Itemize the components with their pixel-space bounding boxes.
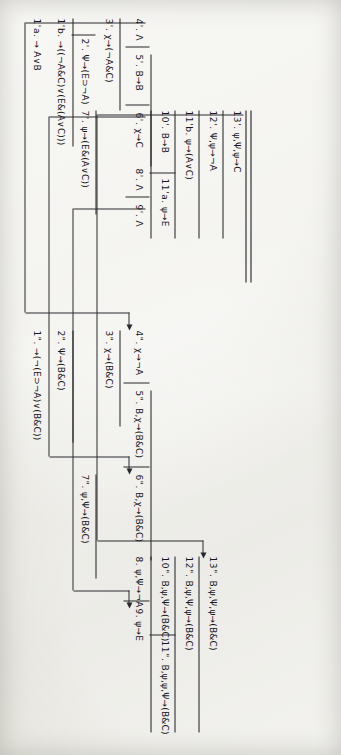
sequent-line-8-prime: 8'. Λ <box>132 168 143 190</box>
sequent-line-4-prime: 4'. Λ <box>132 18 143 40</box>
branch-separator <box>123 382 149 383</box>
sequent-label: 4'. <box>133 18 143 31</box>
branch-separator <box>125 196 149 197</box>
sequent-line-6-dprime: 6". B,χ→(B&C) <box>132 474 143 542</box>
sequent-label: 12". <box>183 556 193 577</box>
arrowhead-to-13dprime-icon <box>201 552 207 558</box>
sequent-body: ψ→(E&(A∨C)) <box>79 126 89 187</box>
sequent-body: B,χ→(B&C) <box>133 408 143 458</box>
sequent-body: B,ψ,Ψ→(B&C) <box>159 580 169 641</box>
inference-bar <box>150 390 151 560</box>
sequent-label: 11". <box>159 640 169 661</box>
sequent-label: 10". <box>159 556 169 577</box>
sequent-label: 2'. <box>79 38 89 51</box>
sequent-label: 13'. <box>231 110 241 129</box>
sequent-label: 1'b. <box>55 18 65 37</box>
inference-bar <box>119 18 120 110</box>
sequent-label: 1". <box>31 330 41 345</box>
sequent-body: → A∨B <box>31 40 41 70</box>
wire-4prime-run <box>24 22 25 312</box>
wire-13prime-riser <box>97 114 243 115</box>
sequent-body: Λ <box>133 220 143 226</box>
sequent-label: 3". <box>103 330 113 345</box>
sequent-line-2-prime: 2'. Ψ→(E⊃¬A) <box>78 38 89 104</box>
branch-separator <box>123 600 149 601</box>
branch-separator <box>149 172 175 173</box>
sequent-body: Ψ,ψ→¬A <box>207 132 217 170</box>
inference-bar <box>174 110 175 238</box>
sequent-body: χ→(B&C) <box>103 348 113 389</box>
wire-13prime-drop <box>97 540 203 541</box>
branch-separator <box>123 466 149 467</box>
sequent-line-13-prime: 13'. ψ,Ψ,ψ→C <box>230 110 241 172</box>
inference-bar <box>119 330 120 426</box>
sequent-body: ψ,Ψ,ψ→C <box>231 132 241 172</box>
sequent-body: Ψ→(E⊃¬A) <box>79 54 89 104</box>
branch-separator <box>125 46 149 47</box>
wire-13prime-run <box>96 114 97 540</box>
inference-bar <box>72 18 73 146</box>
sequent-line-7-prime: 7'. ψ→(E&(A∨C)) <box>78 110 89 187</box>
sequent-label: 13". <box>207 556 217 577</box>
sequent-label: 11'a. <box>159 178 169 203</box>
wire-9prime-riser <box>73 208 145 209</box>
sequent-label: 7". <box>79 474 89 489</box>
sequent-label: 9. <box>133 608 143 618</box>
sequent-line-1-dprime: 1". →(¬(E⊃¬A)∨(B&C)) <box>30 330 41 440</box>
sequent-line-3-dprime: 3". χ→(B&C) <box>102 330 113 388</box>
wire-4prime-drop <box>25 312 129 313</box>
sequent-line-9-prime: 9'. Λ <box>132 204 143 226</box>
sequent-body: ψ,Ψ→(B&C) <box>79 492 89 544</box>
sequent-line-12-dprime: 12". B,ψ,Ψ,ψ→(B&C) <box>182 556 193 650</box>
sequent-label: 5'. <box>133 54 143 67</box>
wire-6prime-drop <box>49 456 129 457</box>
sequent-label: 8. <box>133 556 143 566</box>
sequent-label: 9'. <box>133 204 143 217</box>
sequent-label: 8'. <box>133 168 143 181</box>
sequent-body: Λ <box>133 184 143 190</box>
sequent-body: ψ→E <box>159 206 169 226</box>
derivation-figure: 1'a. → A∨B 1'b. →((¬A&C)∨(E&(A∨C))) 2'. … <box>0 0 341 755</box>
branch-separator <box>71 34 95 35</box>
wire-9prime-run <box>72 208 73 590</box>
sequent-line-1a-prime: 1'a. → A∨B <box>30 18 41 70</box>
branch-separator <box>149 634 175 635</box>
sequent-line-10-prime: 10'. B→B <box>158 110 169 153</box>
inference-bar <box>222 110 223 238</box>
sequent-label: 5". <box>133 390 143 405</box>
sequent-line-7-dprime: 7". ψ,Ψ→(B&C) <box>78 474 89 543</box>
sequent-line-12-prime: 12'. Ψ,ψ→¬A <box>206 110 217 171</box>
sequent-line-11-dprime: 11". B,ψ,ψ,Ψ→(B&C) <box>158 640 169 734</box>
sequent-label: 12'. <box>207 110 217 129</box>
sequent-body: B→B <box>133 70 143 91</box>
sequent-body: B,ψ,Ψ,ψ→(B&C) <box>207 580 217 650</box>
inference-bar <box>150 556 151 732</box>
sequent-line-1b-prime: 1'b. →((¬A&C)∨(E&(A∨C))) <box>54 18 65 145</box>
sequent-line-3-prime: 3'. χ→(¬A&C) <box>102 18 113 82</box>
arrowhead-to-4dprime-icon <box>127 324 133 330</box>
sequent-line-5-prime: 5'. B→B <box>132 54 143 90</box>
sequent-body: B→B <box>159 132 169 153</box>
sequent-body: χ→C <box>133 128 143 148</box>
sequent-line-8: 8. ψ,Ψ→¬A <box>132 556 143 607</box>
wire-4prime-riser <box>25 22 145 23</box>
sequent-body: →(¬(E⊃¬A)∨(B&C)) <box>31 348 41 440</box>
wire-6prime-run <box>48 116 49 456</box>
sequent-line-13-dprime: 13". B,ψ,Ψ,ψ→(B&C) <box>206 556 217 650</box>
sequent-body: Λ <box>133 34 143 40</box>
sequent-label: 10'. <box>159 110 169 129</box>
sequent-line-11b-prime: 11'b. ψ→(A∨C) <box>182 110 193 180</box>
inference-bar <box>198 556 199 732</box>
arrowhead-to-9-icon <box>127 602 133 608</box>
sequent-line-2-dprime: 2". Ψ→(B&C) <box>54 330 65 390</box>
sequent-body: Ψ→(B&C) <box>55 348 65 391</box>
arrowhead-to-6dprime-icon <box>127 468 133 474</box>
sequent-body: B,ψ,Ψ,ψ→(B&C) <box>183 580 193 650</box>
sequent-body: χ→¬A <box>133 348 143 375</box>
sequent-body: B,ψ,ψ,Ψ→(B&C) <box>159 664 169 734</box>
sequent-body: χ→(¬A&C) <box>103 34 113 82</box>
sequent-label: 1'a. <box>31 18 41 37</box>
sequent-line-9: 9. ψ→E <box>132 608 143 641</box>
sequent-label: 2". <box>55 330 65 345</box>
sequent-line-5-dprime: 5". B,χ→(B&C) <box>132 390 143 458</box>
